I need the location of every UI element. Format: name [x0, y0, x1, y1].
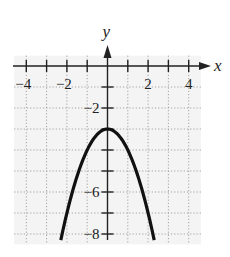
x-axis-label: x — [213, 56, 222, 75]
x-tick-label: −2 — [56, 76, 72, 92]
y-axis-label: y — [101, 22, 111, 41]
parabola-plot: −4−224−2−6−8 x y — [0, 0, 230, 257]
x-tick-label: 4 — [185, 76, 193, 92]
y-tick-label: −6 — [84, 184, 100, 200]
y-tick-label: −2 — [84, 100, 100, 116]
x-tick-label: 2 — [144, 76, 152, 92]
y-tick-label: −8 — [84, 226, 100, 242]
x-tick-label: −4 — [15, 76, 31, 92]
